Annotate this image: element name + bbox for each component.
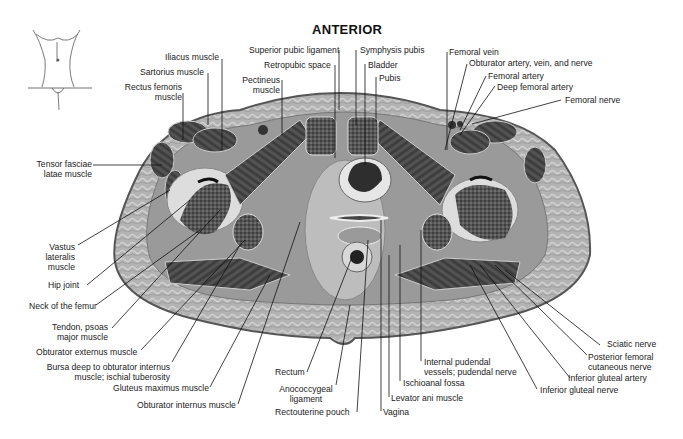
label-retropubic-space: Retropubic space [264, 60, 331, 70]
label-anococcygeal-ligament: Anococcygeal ligament [276, 384, 336, 404]
label-pubis: Pubis [379, 73, 401, 83]
label-rectouterine-pouch: Rectouterine pouch [275, 407, 350, 417]
label-sartorius-muscle: Sartorius muscle [140, 67, 204, 77]
label-posterior-femoral-line1: Posterior femoral [588, 352, 653, 362]
label-rectum: Rectum [275, 367, 305, 377]
label-internal-pudendal-line2: vessels; pudendal nerve [424, 367, 517, 377]
orientation-label: ANTERIOR [312, 22, 382, 37]
label-deep-femoral-artery: Deep femoral artery [497, 82, 573, 92]
label-tendon-psoas-line1: Tendon, psoas [52, 322, 108, 332]
label-vastus-line3: muscle [48, 262, 75, 272]
label-anococcygeal-line1: Anococcygeal [279, 384, 333, 394]
label-neck-of-femur: Neck of the femur [29, 301, 97, 311]
label-bursa-obturator-internus: Bursa deep to obturator internus muscle;… [40, 362, 170, 382]
label-obturator-externus: Obturator externus muscle [36, 347, 137, 357]
label-internal-pudendal-line1: Internal pudendal [424, 357, 490, 367]
label-symphysis-pubis: Symphysis pubis [360, 45, 424, 55]
label-femoral-nerve: Femoral nerve [565, 95, 620, 105]
label-tensor-line1: Tensor fasciae [37, 159, 92, 169]
label-femoral-vein: Femoral vein [449, 47, 499, 57]
label-hip-joint: Hip joint [48, 280, 79, 290]
label-sciatic-nerve: Sciatic nerve [607, 339, 656, 349]
label-ischioanal-fossa: Ischioanal fossa [403, 378, 465, 388]
label-posterior-femoral-cutaneous: Posterior femoral cutaneous nerve [588, 352, 653, 372]
label-tendon-psoas-line2: major muscle [57, 332, 108, 342]
label-pectineus-line2: muscle [253, 85, 280, 95]
label-inferior-gluteal-nerve: Inferior gluteal nerve [540, 385, 618, 395]
label-vastus-lateralis: Vastus lateralis muscle [20, 242, 75, 272]
torso-thumbnail-icon [28, 30, 92, 110]
label-tensor-fasciae-latae: Tensor fasciae latae muscle [10, 159, 92, 179]
label-bursa-line1: Bursa deep to obturator internus [47, 362, 170, 372]
label-pectineus-line1: Pectineus [242, 75, 280, 85]
label-levator-ani: Levator ani muscle [391, 393, 463, 403]
label-obturator-internus: Obturator internus muscle [137, 400, 236, 410]
label-vagina: Vagina [383, 407, 409, 417]
label-superior-pubic-ligament: Superior pubic ligament [249, 45, 339, 55]
label-gluteus-maximus: Gluteus maximus muscle [113, 383, 209, 393]
label-posterior-femoral-line2: cutaneous nerve [588, 362, 652, 372]
label-inferior-gluteal-artery: Inferior gluteal artery [568, 373, 647, 383]
label-vastus-line1: Vastus [49, 242, 75, 252]
label-tensor-line2: latae muscle [44, 169, 92, 179]
label-rectus-femoris-line2: muscle [155, 92, 182, 102]
label-pectineus: Pectineus muscle [230, 75, 280, 95]
label-iliacus-muscle: Iliacus muscle [165, 52, 219, 62]
label-femoral-artery: Femoral artery [488, 71, 544, 81]
label-vastus-line2: lateralis [45, 252, 75, 262]
label-rectus-femoris: Rectus femoris muscle [120, 82, 182, 102]
label-rectus-femoris-line1: Rectus femoris [125, 82, 182, 92]
label-tendon-psoas-major: Tendon, psoas major muscle [40, 322, 108, 342]
label-bladder: Bladder [368, 60, 398, 70]
label-internal-pudendal: Internal pudendal vessels; pudendal nerv… [424, 357, 517, 377]
label-obturator-artery-vein-nerve: Obturator artery, vein, and nerve [469, 58, 593, 68]
label-bursa-line2: muscle; ischial tuberosity [74, 372, 170, 382]
label-anococcygeal-line2: ligament [290, 394, 322, 404]
